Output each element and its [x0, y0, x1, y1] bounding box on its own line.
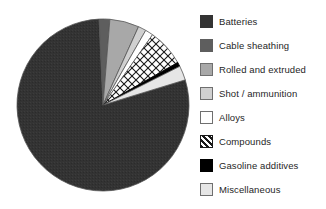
legend-item-compounds[interactable]: Compounds [200, 129, 326, 153]
legend-label-cable-sheathing: Cable sheathing [219, 40, 289, 51]
legend-item-miscellaneous[interactable]: Miscellaneous [200, 177, 326, 201]
pie-slices-group [17, 19, 189, 191]
legend-label-alloys: Alloys [219, 112, 245, 123]
legend-label-rolled-and-extruded: Rolled and extruded [219, 64, 306, 75]
legend-label-batteries: Batteries [219, 16, 257, 27]
legend-swatch-cable-sheathing [200, 39, 213, 52]
legend-swatch-gasoline-additives [200, 159, 213, 172]
legend-label-gasoline-additives: Gasoline additives [219, 160, 298, 171]
pie-svg [0, 0, 196, 209]
legend-swatch-compounds [200, 135, 213, 148]
legend-swatch-shot-ammunition [200, 87, 213, 100]
legend-swatch-batteries [200, 15, 213, 28]
pie-chart-figure: Batteries Cable sheathing Rolled and ext… [0, 0, 326, 209]
legend-label-miscellaneous: Miscellaneous [219, 184, 281, 195]
legend-item-rolled-and-extruded[interactable]: Rolled and extruded [200, 57, 326, 81]
chart-legend: Batteries Cable sheathing Rolled and ext… [200, 9, 326, 205]
legend-item-cable-sheathing[interactable]: Cable sheathing [200, 33, 326, 57]
legend-label-shot-ammunition: Shot / ammunition [219, 88, 297, 99]
legend-swatch-miscellaneous [200, 183, 213, 196]
legend-item-batteries[interactable]: Batteries [200, 9, 326, 33]
legend-item-shot-ammunition[interactable]: Shot / ammunition [200, 81, 326, 105]
legend-label-compounds: Compounds [219, 136, 271, 147]
legend-swatch-rolled-and-extruded [200, 63, 213, 76]
legend-swatch-alloys [200, 111, 213, 124]
pie-plot-area [0, 0, 196, 209]
legend-item-gasoline-additives[interactable]: Gasoline additives [200, 153, 326, 177]
legend-item-alloys[interactable]: Alloys [200, 105, 326, 129]
